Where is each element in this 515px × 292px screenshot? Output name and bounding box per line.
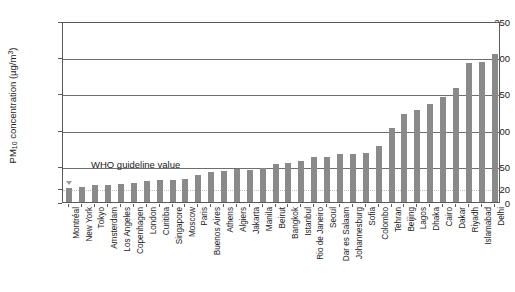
x-axis-tick-mark — [339, 204, 340, 207]
x-axis-tick-mark — [391, 204, 392, 207]
bar — [92, 185, 98, 202]
x-axis-tick-mark — [481, 204, 482, 207]
x-axis-tick-mark — [365, 204, 366, 207]
bar — [414, 110, 420, 202]
x-axis-tick-mark — [416, 204, 417, 207]
who-guideline-annotation: WHO guideline value — [91, 159, 180, 170]
x-axis-label: Seoul — [329, 207, 338, 228]
x-axis-label: Singapore — [175, 207, 184, 244]
x-axis-label: Dakar — [458, 207, 467, 229]
bar — [221, 171, 227, 202]
bar — [363, 153, 369, 202]
x-axis-label: Dar es Salaam — [342, 207, 351, 261]
x-axis-label: London — [149, 207, 158, 234]
y-axis-title: PM10 concentration (µg/m3) — [2, 0, 24, 210]
x-axis-tick-mark — [287, 204, 288, 207]
bar — [376, 146, 382, 202]
bar-series — [63, 23, 499, 202]
x-axis-label: Istanbul — [304, 207, 313, 236]
x-axis-tick-mark — [184, 204, 185, 207]
bar — [118, 184, 124, 202]
bar — [182, 179, 188, 202]
x-axis-tick-mark — [236, 204, 237, 207]
x-axis-label: Curitiba — [162, 207, 171, 235]
x-axis-tick-mark — [68, 204, 69, 207]
x-axis-label: Rio de Janeiro — [316, 207, 325, 260]
x-axis-label: New York — [85, 207, 94, 242]
x-axis-tick-mark — [159, 204, 160, 207]
pm10-bar-chart: PM10 concentration (µg/m3) 0205010015020… — [0, 0, 515, 292]
x-axis-tick-mark — [468, 204, 469, 207]
bar — [157, 180, 163, 202]
x-axis-tick-mark — [210, 204, 211, 207]
bar — [285, 163, 291, 202]
bar — [324, 157, 330, 202]
bar — [273, 164, 279, 202]
bar — [195, 175, 201, 203]
x-axis-label: Manila — [265, 207, 274, 231]
x-axis-label-group: MontréalNew YorkTokyoAmsterdamLos Angele… — [62, 204, 500, 292]
x-axis-tick-mark — [262, 204, 263, 207]
x-axis-tick-mark — [81, 204, 82, 207]
x-axis-label: Cairo — [445, 207, 454, 227]
x-axis-tick-mark — [442, 204, 443, 207]
x-axis-tick-mark — [94, 204, 95, 207]
x-axis-tick-mark — [352, 204, 353, 207]
x-axis-tick-mark — [275, 204, 276, 207]
bar — [131, 183, 137, 202]
x-axis-tick-mark — [120, 204, 121, 207]
x-axis-label: Beirut — [278, 207, 287, 228]
x-axis-label: Lagos — [419, 207, 428, 229]
x-axis-tick-mark — [403, 204, 404, 207]
x-axis-label: Islamabad — [484, 207, 493, 245]
x-axis-tick-mark — [429, 204, 430, 207]
x-axis-tick-mark — [455, 204, 456, 207]
x-axis-label: Beijing — [407, 207, 416, 232]
bar — [427, 104, 433, 202]
bar — [337, 154, 343, 202]
x-axis-label: Sofia — [368, 207, 377, 226]
x-axis-tick-mark — [378, 204, 379, 207]
plot-area: WHO guideline value — [62, 22, 500, 203]
x-axis-label: Delhi — [497, 207, 506, 226]
x-axis-label: Montréal — [72, 207, 81, 239]
x-axis-label: Copenhagen — [136, 207, 145, 254]
x-axis-label: Tehran — [394, 207, 403, 232]
x-axis-tick-mark — [197, 204, 198, 207]
x-axis-label: Johannesburg — [355, 207, 364, 259]
x-axis-label: Riyadh — [471, 207, 480, 233]
x-axis-tick-mark — [146, 204, 147, 207]
y-axis-title-text: PM10 concentration (µg/m3) — [8, 47, 19, 163]
x-axis-label: Los Angeles — [123, 207, 132, 252]
x-axis-tick-mark — [300, 204, 301, 207]
x-axis-label: Dhaka — [432, 207, 441, 231]
x-axis-label: Athens — [226, 207, 235, 233]
bar — [298, 161, 304, 202]
x-axis-label: Jakarta — [252, 207, 261, 234]
bar — [79, 187, 85, 202]
x-axis-label: Amsterdam — [110, 207, 119, 249]
bar — [260, 168, 266, 202]
bar — [466, 63, 472, 202]
bar — [105, 185, 111, 202]
x-axis-label: Algiers — [239, 207, 248, 232]
x-axis-tick-mark — [249, 204, 250, 207]
bar — [247, 170, 253, 202]
x-axis-tick-mark — [494, 204, 495, 207]
bar — [144, 181, 150, 202]
x-axis-label: Tokyo — [97, 207, 106, 228]
x-axis-tick-mark — [313, 204, 314, 207]
bar — [440, 97, 446, 202]
x-axis-label: Bangkok — [291, 207, 300, 239]
bar — [453, 88, 459, 202]
who-guideline-marker — [66, 181, 72, 185]
x-axis-label: Paris — [200, 207, 209, 226]
x-axis-label: Buenos Aires — [213, 207, 222, 255]
bar — [311, 157, 317, 202]
bar — [66, 188, 72, 202]
bar — [492, 54, 498, 202]
bar — [389, 128, 395, 202]
bar — [401, 114, 407, 202]
bar — [479, 62, 485, 202]
bar — [170, 180, 176, 202]
